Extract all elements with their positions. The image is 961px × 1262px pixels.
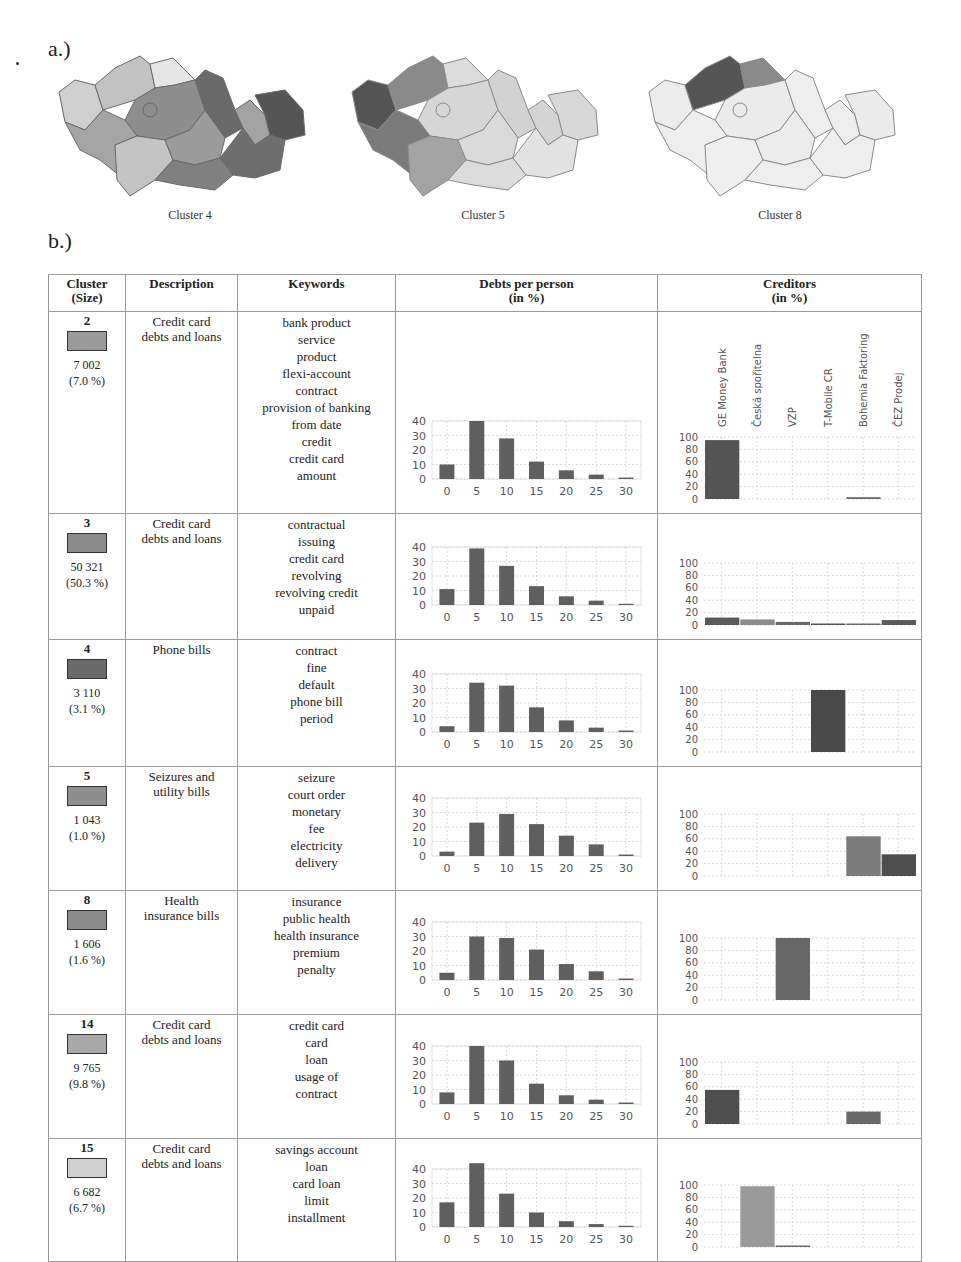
- description-line: Credit card: [126, 1017, 237, 1032]
- bar: [846, 624, 880, 626]
- bar: [499, 938, 514, 980]
- bar: [529, 824, 544, 856]
- x-tick-label: 15: [530, 1110, 544, 1123]
- map-cluster-8: Cluster 8: [645, 40, 915, 230]
- keyword: delivery: [238, 854, 395, 871]
- cluster-percent: (50.3 %): [49, 575, 125, 591]
- keywords-cell: contractualissuingcredit cardrevolvingre…: [238, 514, 396, 640]
- keyword: unpaid: [238, 601, 395, 618]
- creditors-bar-chart: 020406080100: [658, 891, 922, 1010]
- keyword: product: [238, 348, 395, 365]
- cluster-color-swatch: [67, 533, 107, 553]
- y-tick-label: 30: [412, 1178, 426, 1191]
- y-tick-label: 30: [412, 807, 426, 820]
- keyword-list: savings accountloancard loanlimitinstall…: [238, 1141, 395, 1226]
- bar: [619, 855, 634, 856]
- bar: [559, 720, 574, 732]
- debts-chart-cell: 010203040051015202530: [396, 514, 658, 640]
- x-tick-label: 0: [443, 986, 450, 999]
- bar: [499, 1194, 514, 1227]
- y-tick-label: 80: [685, 697, 698, 708]
- x-tick-label: 20: [559, 1233, 573, 1246]
- creditor-label: VZP: [787, 407, 798, 427]
- x-tick-label: 25: [589, 986, 603, 999]
- cluster-id: 4: [49, 642, 125, 656]
- keyword: court order: [238, 786, 395, 803]
- cluster-percent: (6.7 %): [49, 1200, 125, 1216]
- debts-chart-cell: 010203040051015202530: [396, 891, 658, 1015]
- y-tick-label: 80: [685, 821, 698, 832]
- description-text: Credit carddebts and loans: [126, 314, 237, 344]
- y-tick-label: 60: [685, 456, 698, 467]
- bar: [529, 462, 544, 479]
- bar: [589, 601, 604, 605]
- cluster-cell: 27 002(7.0 %): [49, 312, 126, 514]
- bar: [529, 707, 544, 732]
- x-tick-label: 25: [589, 1233, 603, 1246]
- y-tick-label: 40: [685, 1217, 698, 1228]
- cluster-percent: (1.6 %): [49, 952, 125, 968]
- cluster-color-swatch: [67, 331, 107, 351]
- x-tick-label: 20: [559, 738, 573, 751]
- czech-map-cluster-4: [55, 40, 325, 200]
- cluster-count: 9 765: [49, 1060, 125, 1076]
- keyword: insurance: [238, 893, 395, 910]
- description-line: Seizures and: [126, 769, 237, 784]
- bar: [846, 1112, 880, 1124]
- y-tick-label: 40: [412, 415, 426, 428]
- creditors-bar-chart: 020406080100: [658, 1015, 922, 1134]
- keyword: bank product: [238, 314, 395, 331]
- keyword: revolving: [238, 567, 395, 584]
- debts-chart-cell: 010203040051015202530: [396, 640, 658, 767]
- bar: [589, 844, 604, 856]
- keyword: penalty: [238, 961, 395, 978]
- x-tick-label: 10: [500, 738, 514, 751]
- x-tick-label: 25: [589, 738, 603, 751]
- y-tick-label: 100: [679, 1180, 698, 1191]
- keyword: electricity: [238, 837, 395, 854]
- y-tick-label: 0: [419, 850, 426, 863]
- x-tick-label: 15: [530, 862, 544, 875]
- table-row: 43 110(3.1 %)Phone billscontractfinedefa…: [49, 640, 922, 767]
- y-tick-label: 20: [412, 821, 426, 834]
- x-tick-label: 25: [589, 1110, 603, 1123]
- bar: [619, 1226, 634, 1227]
- bar: [846, 836, 880, 876]
- keyword: amount: [238, 467, 395, 484]
- header-creditors: Creditors (in %): [658, 275, 922, 312]
- keyword: from date: [238, 416, 395, 433]
- y-tick-label: 30: [412, 1055, 426, 1068]
- bar: [469, 421, 484, 479]
- creditors-chart-cell: 020406080100: [658, 1139, 922, 1262]
- czech-map-cluster-8: [645, 40, 915, 200]
- description-line: Health: [126, 893, 237, 908]
- header-debts-line1: Debts per person: [396, 277, 657, 291]
- creditors-bar-chart: 020406080100: [658, 767, 922, 886]
- description-cell: Credit carddebts and loans: [126, 312, 238, 514]
- cluster-id: 15: [49, 1141, 125, 1155]
- bar: [705, 1090, 739, 1124]
- cluster-id: 14: [49, 1017, 125, 1031]
- debts-bar-chart: 010203040051015202530: [396, 312, 658, 509]
- bar: [439, 1202, 454, 1227]
- y-tick-label: 10: [412, 960, 426, 973]
- y-tick-label: 20: [685, 982, 698, 993]
- debts-chart-cell: 010203040051015202530: [396, 312, 658, 514]
- bar: [469, 548, 484, 605]
- map-caption: Cluster 5: [348, 208, 618, 223]
- y-tick-label: 30: [412, 430, 426, 443]
- x-tick-label: 10: [500, 611, 514, 624]
- x-tick-label: 20: [559, 862, 573, 875]
- x-tick-label: 25: [589, 485, 603, 498]
- x-tick-label: 10: [500, 485, 514, 498]
- bar: [499, 814, 514, 856]
- y-tick-label: 40: [412, 916, 426, 929]
- y-tick-label: 0: [692, 620, 698, 631]
- figure-part-b-label: b.): [48, 228, 72, 254]
- debts-bar-chart: 010203040051015202530: [396, 1015, 658, 1134]
- y-tick-label: 0: [419, 974, 426, 987]
- y-tick-label: 20: [412, 444, 426, 457]
- x-tick-label: 30: [619, 986, 633, 999]
- y-tick-label: 100: [679, 685, 698, 696]
- description-line: Credit card: [126, 1141, 237, 1156]
